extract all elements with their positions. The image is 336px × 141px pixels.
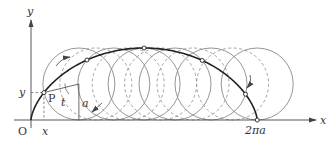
y-coord-label: y bbox=[18, 86, 26, 99]
dashed-circle bbox=[197, 48, 269, 120]
rolling-circle bbox=[221, 48, 293, 120]
radius-a-label: a bbox=[82, 97, 89, 110]
cycloid-point-marker bbox=[85, 58, 89, 62]
angle-t-arc bbox=[65, 84, 69, 95]
rolling-circle bbox=[108, 48, 180, 120]
cycloid-point-marker bbox=[142, 46, 146, 50]
point-p-label: P bbox=[48, 92, 56, 105]
descent-arrow-icon bbox=[247, 75, 251, 88]
cycloid-point-marker bbox=[42, 91, 46, 95]
x-axis-label: x bbox=[320, 114, 327, 127]
angle-t-label: t bbox=[61, 96, 66, 109]
rolling-circles bbox=[43, 48, 293, 120]
end-2pia-label: 2πa bbox=[244, 124, 266, 137]
cycloid-point-marker bbox=[244, 92, 248, 96]
dashed-circle bbox=[92, 48, 164, 120]
y-axis-label: y bbox=[26, 5, 34, 18]
rotation-arrow-icon bbox=[56, 57, 70, 66]
cycloid-diagram: y x O P x y t a 2πa bbox=[0, 0, 336, 141]
origin-label: O bbox=[18, 125, 27, 138]
cycloid-point-marker bbox=[255, 118, 259, 122]
cycloid-point-marker bbox=[200, 58, 204, 62]
dashed-circle bbox=[157, 48, 229, 120]
rolling-arrow-icon bbox=[92, 103, 102, 112]
x-coord-label: x bbox=[42, 125, 49, 138]
dashed-circle bbox=[60, 48, 132, 120]
